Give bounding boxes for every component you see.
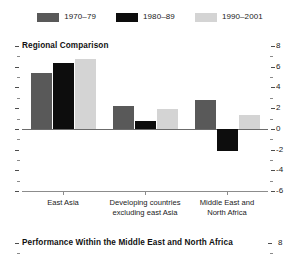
y-tick-mark-right — [271, 170, 275, 171]
x-axis-label: East Asia — [22, 198, 104, 208]
y-tick-mark-right-minor — [270, 181, 273, 182]
y-tick-mark-left-minor — [17, 160, 20, 161]
panel2-tick-mark-left-8 — [15, 243, 19, 244]
y-tick-label: 8 — [276, 41, 280, 50]
y-tick-mark-right-minor — [270, 139, 273, 140]
bar — [75, 59, 96, 128]
bar — [53, 63, 74, 129]
panel2-tick-mark-right-minor — [270, 253, 273, 254]
y-tick-label: -4 — [276, 165, 283, 174]
panel2-tick-mark-right-8 — [268, 243, 272, 244]
legend-swatch-1970-79 — [37, 13, 59, 22]
y-tick-mark-right — [271, 129, 275, 130]
y-tick-label: 2 — [276, 103, 280, 112]
y-tick-mark-right — [271, 108, 275, 109]
x-axis-label: Developing countries excluding east Asia — [104, 198, 186, 217]
bar — [195, 100, 216, 129]
y-tick-mark-left — [15, 170, 19, 171]
y-tick-mark-left — [15, 129, 19, 130]
bar — [135, 121, 156, 129]
y-tick-mark-right-minor — [270, 119, 273, 120]
y-tick-mark-right — [271, 87, 275, 88]
y-tick-mark-left — [15, 87, 19, 88]
y-tick-label: 6 — [276, 61, 280, 70]
y-tick-mark-right — [271, 46, 275, 47]
y-tick-mark-left — [15, 46, 19, 47]
legend-item-1970-79: 1970–79 — [37, 12, 96, 22]
bar — [157, 109, 178, 129]
bar — [217, 129, 238, 151]
bar — [31, 73, 52, 129]
legend-label-1980-89: 1980–89 — [143, 12, 175, 22]
y-tick-label: -6 — [276, 186, 283, 195]
y-tick-mark-right-minor — [270, 98, 273, 99]
x-tick-mark — [145, 191, 146, 195]
legend-item-1990-2001: 1990–2001 — [195, 12, 263, 22]
y-tick-mark-right — [271, 191, 275, 192]
panel-title-performance-within-mena: Performance Within the Middle East and N… — [22, 238, 233, 247]
x-tick-mark — [63, 191, 64, 195]
chart-legend: 1970–79 1980–89 1990–2001 — [0, 6, 300, 28]
y-tick-mark-right-minor — [270, 160, 273, 161]
y-tick-mark-left-minor — [17, 181, 20, 182]
y-tick-label: -2 — [276, 144, 283, 153]
y-tick-mark-left — [15, 191, 19, 192]
bar — [239, 115, 260, 128]
y-tick-mark-left-minor — [17, 77, 20, 78]
bar — [113, 106, 134, 129]
y-tick-mark-left — [15, 108, 19, 109]
y-tick-mark-right — [271, 67, 275, 68]
y-tick-mark-right-minor — [270, 77, 273, 78]
y-tick-label: 0 — [276, 123, 280, 132]
y-tick-mark-left — [15, 67, 19, 68]
legend-label-1970-79: 1970–79 — [64, 12, 96, 22]
panel2-tick-label-8: 8 — [278, 238, 282, 247]
y-tick-mark-left-minor — [17, 56, 20, 57]
legend-label-1990-2001: 1990–2001 — [222, 12, 263, 22]
x-axis-label: Middle East and North Africa — [186, 198, 268, 217]
x-tick-mark — [227, 191, 228, 195]
y-tick-mark-left-minor — [17, 139, 20, 140]
y-tick-mark-right-minor — [270, 56, 273, 57]
y-tick-mark-left — [15, 150, 19, 151]
y-tick-mark-left-minor — [17, 119, 20, 120]
chart-page: 1970–79 1980–89 1990–2001 Regional Compa… — [0, 0, 300, 263]
y-tick-mark-right — [271, 150, 275, 151]
legend-swatch-1980-89 — [116, 13, 138, 22]
panel2-tick-mark-left-minor — [17, 253, 20, 254]
legend-item-1980-89: 1980–89 — [116, 12, 175, 22]
legend-swatch-1990-2001 — [195, 13, 217, 22]
plot-area-regional-comparison: 86420-2-4-6 — [22, 46, 268, 191]
y-tick-mark-left-minor — [17, 98, 20, 99]
y-tick-label: 4 — [276, 82, 280, 91]
